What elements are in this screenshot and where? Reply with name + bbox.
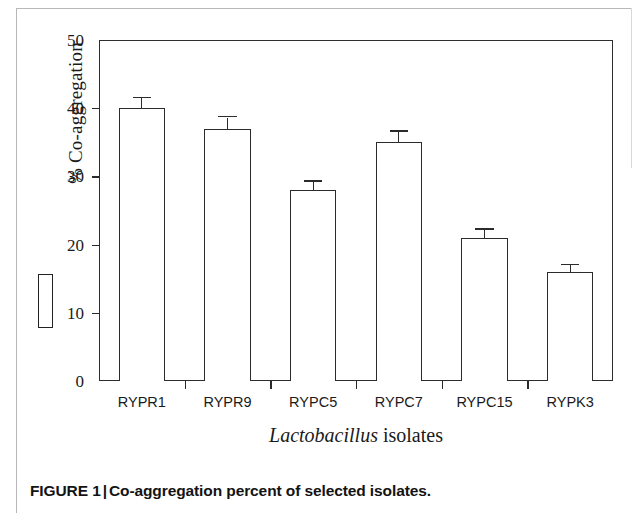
bar-rypc5: [290, 190, 336, 381]
bar-group: [376, 40, 422, 381]
y-tick-label: 0: [50, 373, 84, 390]
x-tick-label-rypc5: RYPC5: [270, 394, 356, 410]
bar-rypr1: [119, 108, 165, 381]
error-bar-cap: [561, 264, 580, 266]
x-tick-label-rypk3: RYPK3: [527, 394, 613, 410]
error-bar-stem: [313, 182, 314, 190]
figure-caption-text: Co-aggregation percent of selected isola…: [109, 482, 431, 499]
x-axis-title: Lactobacillus isolates: [99, 424, 613, 447]
y-tick-mark: [92, 313, 99, 314]
error-bar-cap: [304, 180, 323, 182]
error-bar-cap: [133, 97, 152, 99]
figure-caption: FIGURE 1|Co-aggregation percent of selec…: [30, 482, 620, 500]
x-tick-mark: [270, 381, 271, 389]
x-tick-label-rypc15: RYPC15: [442, 394, 528, 410]
figure-caption-separator: |: [101, 482, 109, 499]
bar-chart: % Co-aggregation 01020304050 RYPR1RYPR9R…: [0, 0, 640, 455]
bars-layer: [99, 40, 613, 381]
y-tick-label: 20: [50, 237, 84, 254]
figure-container: % Co-aggregation 01020304050 RYPR1RYPR9R…: [0, 0, 640, 517]
y-tick-label: 30: [50, 168, 84, 185]
x-tick-label-rypr9: RYPR9: [185, 394, 271, 410]
x-axis-title-genus: Lactobacillus: [269, 424, 378, 446]
error-bar-stem: [398, 132, 399, 143]
error-bar-stem: [227, 118, 228, 129]
y-tick-label: 40: [50, 100, 84, 117]
x-tick-label-rypr1: RYPR1: [99, 394, 185, 410]
x-axis-title-rest: isolates: [378, 424, 443, 446]
error-bar-cap: [218, 116, 237, 118]
error-bar-cap: [475, 228, 494, 230]
x-tick-mark: [185, 381, 186, 389]
bar-rypk3: [547, 272, 593, 381]
bar-group: [204, 40, 250, 381]
y-tick-mark: [92, 108, 99, 109]
x-tick-mark: [356, 381, 357, 389]
bar-rypc7: [376, 142, 422, 381]
bar-group: [119, 40, 165, 381]
error-bar-cap: [390, 130, 409, 132]
y-tick-mark: [92, 245, 99, 246]
bar-group: [290, 40, 336, 381]
x-tick-mark: [527, 381, 528, 389]
y-tick-label: 50: [50, 32, 84, 49]
y-tick-label: 10: [50, 305, 84, 322]
bar-rypr9: [204, 129, 250, 381]
bar-group: [547, 40, 593, 381]
bar-group: [461, 40, 507, 381]
error-bar-stem: [484, 230, 485, 238]
x-tick-mark: [442, 381, 443, 389]
error-bar-stem: [141, 98, 142, 108]
error-bar-stem: [570, 265, 571, 271]
bar-rypc15: [461, 238, 507, 381]
x-tick-label-rypc7: RYPC7: [356, 394, 442, 410]
figure-caption-label: FIGURE 1: [30, 482, 101, 499]
y-tick-mark: [92, 176, 99, 177]
